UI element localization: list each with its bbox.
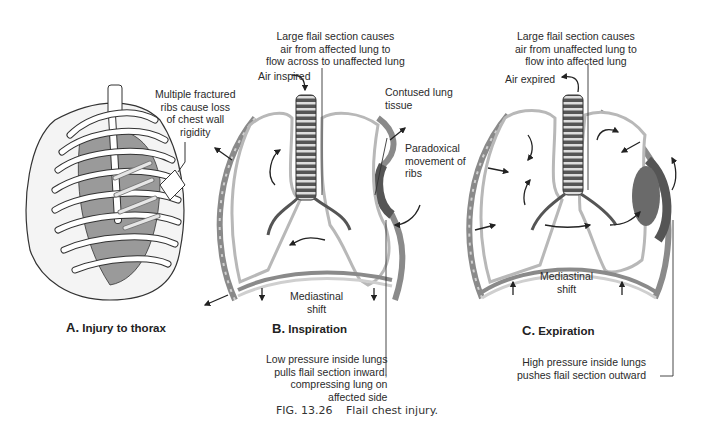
label-line: Low pressure inside lungs	[266, 353, 387, 366]
label-line: affected side	[266, 391, 387, 404]
label-line: air from affected lung to	[266, 43, 405, 56]
label-line: Mediastinal	[540, 270, 593, 283]
label-line: rigidity	[155, 126, 236, 139]
label-line: pushes flail section outward	[517, 369, 646, 382]
label-air-inspired: Air inspired	[258, 70, 311, 83]
caption-text: Flail chest injury.	[346, 404, 438, 417]
label-line: movement of	[405, 155, 466, 168]
panel-letter: A.	[66, 320, 79, 335]
label-paradoxical-movement: Paradoxical movement of ribs	[405, 142, 466, 180]
label-contused-lung: Contused lung tissue	[385, 86, 453, 111]
label-line: shift	[290, 303, 343, 316]
panel-title-text: Injury to thorax	[82, 322, 166, 334]
panel-letter: B.	[272, 321, 285, 336]
panel-title-text: Inspiration	[288, 323, 347, 335]
label-line: Mediastinal	[290, 290, 343, 303]
label-line: compressing lung on	[266, 378, 387, 391]
label-line: air from unaffected lung to	[515, 43, 637, 56]
label-air-expired: Air expired	[505, 73, 555, 86]
label-line: of chest wall	[155, 113, 236, 126]
label-line: Multiple fractured	[155, 88, 236, 101]
panel-c-title: C. Expiration	[522, 323, 594, 338]
label-line: High pressure inside lungs	[517, 356, 646, 369]
label-line: flow into affected lung	[515, 55, 637, 68]
label-inspiration-top: Large flail section causes air from affe…	[266, 30, 405, 68]
label-line: Large flail section causes	[266, 30, 405, 43]
label-line: ribs cause loss	[155, 101, 236, 114]
label-line: shift	[540, 283, 593, 296]
figure-caption: FIG. 13.26 Flail chest injury.	[0, 404, 714, 417]
label-low-pressure: Low pressure inside lungs pulls flail se…	[266, 353, 387, 403]
label-line: ribs	[405, 167, 466, 180]
caption-number: FIG. 13.26	[276, 404, 333, 417]
panel-letter: C.	[522, 323, 535, 338]
label-line: flow across to unaffected lung	[266, 55, 405, 68]
label-mediastinal-shift-b: Mediastinal shift	[290, 290, 343, 315]
label-line: Paradoxical	[405, 142, 466, 155]
panel-title-text: Expiration	[538, 325, 594, 337]
panel-a-title: A. Injury to thorax	[66, 320, 166, 335]
label-expiration-top: Large flail section causes air from unaf…	[515, 30, 637, 68]
label-line: Contused lung	[385, 86, 453, 99]
label-mediastinal-shift-c: Mediastinal shift	[540, 270, 593, 295]
label-line: tissue	[385, 99, 453, 112]
label-high-pressure: High pressure inside lungs pushes flail …	[517, 356, 646, 381]
panel-b-title: B. Inspiration	[272, 321, 347, 336]
label-line: pulls flail section inward,	[266, 366, 387, 379]
label-line: Large flail section causes	[515, 30, 637, 43]
label-fractured-ribs: Multiple fractured ribs cause loss of ch…	[155, 88, 236, 138]
